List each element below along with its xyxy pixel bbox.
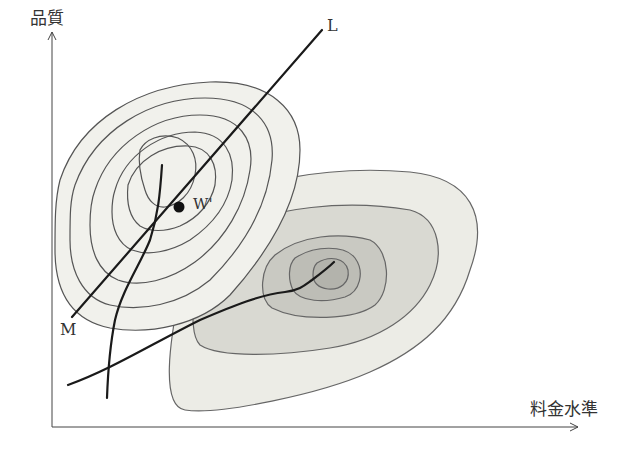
line-label-L: L: [327, 16, 338, 35]
equilibrium-point-W: [174, 202, 185, 213]
line-label-M: M: [60, 320, 76, 339]
y-axis-label: 品質: [30, 4, 64, 29]
point-label-W: W': [193, 195, 213, 213]
contour-diagram: [0, 0, 637, 453]
x-axis-label: 料金水準: [530, 395, 598, 420]
